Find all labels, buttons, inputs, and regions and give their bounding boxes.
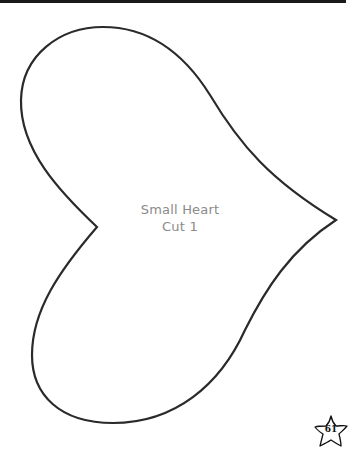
page-number: 61 <box>313 424 349 434</box>
shape-name-label: Small Heart <box>130 202 230 217</box>
cut-instruction-label: Cut 1 <box>130 219 230 234</box>
